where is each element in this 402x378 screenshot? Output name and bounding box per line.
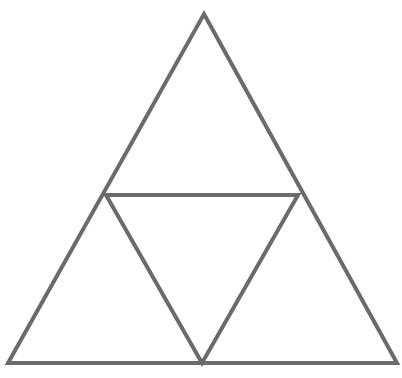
triangle-diagram <box>0 0 402 378</box>
outer-triangle <box>8 14 397 363</box>
inner-triangle <box>106 195 298 363</box>
